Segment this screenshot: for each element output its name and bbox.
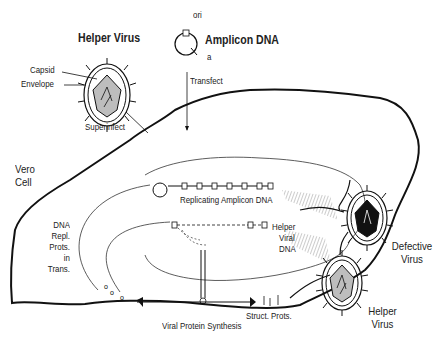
ribosome-dots: o: [104, 283, 108, 290]
replicating-amplicon-dna-label: Replicating Amplicon DNA: [180, 195, 272, 206]
diagram-canvas: o o o: [0, 0, 443, 347]
ori-box: [183, 30, 189, 36]
defective-virus-label: Defective Virus: [386, 240, 439, 266]
viral-protein-synthesis-label: Viral Protein Synthesis: [162, 321, 242, 332]
envelope-label: Envelope: [21, 79, 54, 90]
helper-viral-dna-label: Helper Viral DNA: [272, 222, 296, 255]
vero-cell-label: Vero Cell: [15, 163, 50, 189]
replicating-circle-icon: [153, 183, 167, 197]
helper-virus-bottom-label: Helper Virus: [363, 305, 403, 331]
amplicon-dna-label: Amplicon DNA: [205, 35, 279, 46]
svg-text:o: o: [110, 289, 114, 296]
capsid-pointer: [62, 72, 97, 79]
svg-text:o: o: [120, 294, 124, 301]
dna-repl-prots-label: DNA Repl. Prots. in Trans.: [44, 220, 70, 275]
a-label: a: [207, 52, 211, 63]
helper-virus-top-label: Helper Virus: [78, 33, 140, 44]
helper-virus-top-icon: [78, 58, 136, 132]
capsid-label: Capsid: [30, 65, 55, 76]
transfect-label: Transfect: [190, 76, 223, 87]
struct-prots-label: Struct. Prots.: [246, 311, 292, 322]
nucleus-outline: [145, 157, 365, 280]
hatch-arrow-amplicon: [282, 190, 338, 220]
superinfect-label: Superinfect: [85, 122, 125, 133]
ori-label: ori: [193, 10, 202, 21]
superinfect-arrow: [126, 112, 148, 133]
